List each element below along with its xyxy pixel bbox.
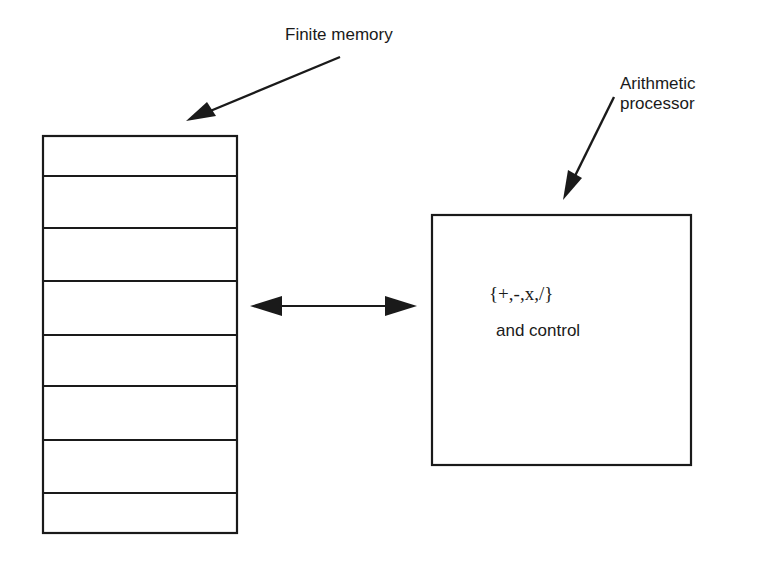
memory-label: Finite memory — [285, 25, 393, 45]
memory-stack — [43, 136, 237, 533]
processor-label-line1: Arithmetic — [620, 74, 696, 94]
processor-pointer-arrow — [563, 97, 614, 200]
processor-label-line2: processor — [620, 94, 696, 114]
operations-label: {+,-,x,/} — [489, 284, 553, 304]
memory-pointer-arrow — [186, 57, 340, 121]
control-label: and control — [496, 321, 580, 341]
processor-label: Arithmetic processor — [620, 74, 696, 114]
bidirectional-arrow — [250, 296, 417, 316]
